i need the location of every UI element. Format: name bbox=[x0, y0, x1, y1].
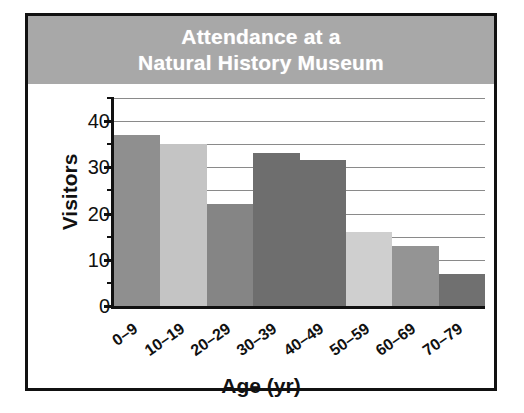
y-axis-tick-labels: 010203040 bbox=[70, 84, 110, 314]
chart-title-line-2: Natural History Museum bbox=[138, 50, 384, 76]
bar-10-19 bbox=[160, 144, 206, 306]
bar-50-59 bbox=[346, 232, 392, 306]
y-axis-major-tick bbox=[104, 120, 114, 123]
bar-20-29 bbox=[207, 204, 253, 306]
y-axis-minor-tick bbox=[107, 236, 114, 238]
bar-70-79 bbox=[439, 274, 485, 306]
y-axis-minor-tick bbox=[107, 97, 114, 99]
y-axis-minor-tick bbox=[107, 282, 114, 284]
x-axis-title: Age (yr) bbox=[28, 374, 494, 398]
bar-30-39 bbox=[253, 153, 299, 306]
chart-title-banner: Attendance at a Natural History Museum bbox=[28, 16, 494, 84]
bar-0-9 bbox=[114, 135, 160, 306]
chart-title-line-1: Attendance at a bbox=[181, 24, 340, 50]
plot-box bbox=[111, 98, 485, 309]
plot-inner bbox=[114, 98, 485, 306]
y-axis-major-tick bbox=[104, 213, 114, 216]
y-axis-major-tick bbox=[104, 305, 114, 308]
bar-60-69 bbox=[392, 246, 438, 306]
bar-40-49 bbox=[300, 160, 346, 306]
y-axis-major-tick bbox=[104, 166, 114, 169]
chart-figure-frame: Attendance at a Natural History Museum V… bbox=[25, 13, 497, 391]
plot-area: Visitors 010203040 0–910–1920–2930–3940–… bbox=[28, 84, 494, 388]
x-axis-tick-labels: 0–910–1920–2930–3940–4950–5960–6970–79 bbox=[111, 312, 482, 382]
y-axis-minor-tick bbox=[107, 143, 114, 145]
y-axis-major-tick bbox=[104, 259, 114, 262]
bar-series bbox=[114, 98, 485, 306]
y-axis-minor-tick bbox=[107, 189, 114, 191]
